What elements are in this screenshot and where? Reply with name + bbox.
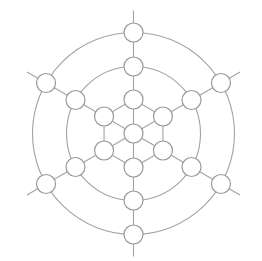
board-node[interactable] bbox=[211, 175, 230, 194]
board-node-center[interactable] bbox=[124, 124, 143, 143]
board-node[interactable] bbox=[124, 90, 143, 109]
board-node[interactable] bbox=[124, 23, 143, 42]
board-node[interactable] bbox=[182, 158, 201, 177]
board-node[interactable] bbox=[124, 225, 143, 244]
board-node[interactable] bbox=[95, 141, 114, 160]
board-node[interactable] bbox=[124, 57, 143, 76]
board-node[interactable] bbox=[153, 141, 172, 160]
hex-board-diagram bbox=[0, 0, 262, 261]
board-node[interactable] bbox=[66, 158, 85, 177]
board-node[interactable] bbox=[95, 107, 114, 126]
board-node[interactable] bbox=[66, 91, 85, 110]
board-node[interactable] bbox=[124, 191, 143, 210]
board-node[interactable] bbox=[211, 74, 230, 93]
board-node[interactable] bbox=[182, 91, 201, 110]
board-node[interactable] bbox=[124, 158, 143, 177]
board-node[interactable] bbox=[153, 107, 172, 126]
board-node[interactable] bbox=[37, 175, 56, 194]
board-node[interactable] bbox=[37, 74, 56, 93]
